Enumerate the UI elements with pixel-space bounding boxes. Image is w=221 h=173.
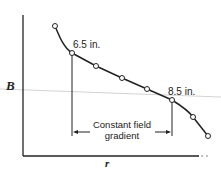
region-label-line2: gradient <box>105 130 140 141</box>
data-point <box>206 134 211 139</box>
data-point <box>94 64 99 69</box>
diagram-canvas: B r 6.5 in. 8.5 in. Constant field gradi… <box>0 0 221 173</box>
data-point <box>170 98 175 103</box>
data-point <box>70 51 75 56</box>
data-point <box>145 87 150 92</box>
data-point <box>53 24 58 29</box>
data-point <box>120 76 125 81</box>
right-arrow-head-icon <box>166 130 171 134</box>
data-point <box>191 115 196 120</box>
y-axis-label: B <box>5 78 15 93</box>
marker-label-8-5-in: 8.5 in. <box>168 86 195 97</box>
field-gradient-diagram: B r 6.5 in. 8.5 in. Constant field gradi… <box>0 0 221 173</box>
x-axis-label: r <box>105 157 110 169</box>
region-label-line1: Constant field <box>93 119 151 130</box>
marker-label-6-5-in: 6.5 in. <box>73 39 100 50</box>
left-arrow-head-icon <box>73 130 78 134</box>
